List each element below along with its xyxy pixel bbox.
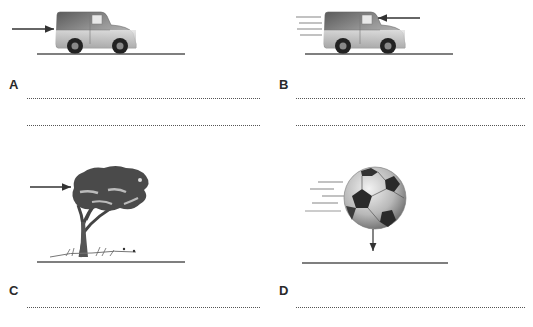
panel-c-illustration [30,166,185,262]
answer-line-a-2[interactable] [27,125,260,126]
football-icon [344,167,406,229]
panel-b-illustration [296,12,453,54]
van-icon [56,12,136,54]
panel-label-a: A [9,77,18,92]
worksheet-illustrations [0,0,533,327]
tree-icon [50,166,149,257]
answer-line-a-1[interactable] [27,98,260,99]
answer-line-b-1[interactable] [296,98,525,99]
panel-a-illustration [12,12,185,54]
answer-line-c-1[interactable] [27,307,260,308]
panel-label-c: C [9,283,18,298]
motion-lines-icon [296,17,322,35]
panel-label-b: B [279,77,288,92]
answer-line-b-2[interactable] [296,125,525,126]
panel-d-illustration [302,167,448,263]
answer-line-d-1[interactable] [296,307,525,308]
motion-lines-icon [305,182,344,211]
panel-label-d: D [279,283,288,298]
